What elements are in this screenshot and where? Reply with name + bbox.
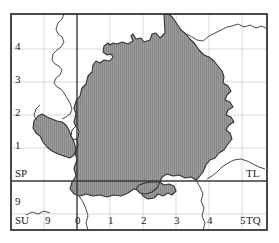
map-figure: 4 3 2 1 9 9 0 1 2 3 4 5 SP TL SU TQ	[0, 0, 279, 243]
northing-tick-1: 1	[15, 140, 21, 151]
grid-square-label-su: SU	[15, 215, 29, 226]
easting-tick-5: 5	[240, 215, 246, 226]
grid-square-label-tq: TQ	[246, 215, 261, 226]
northing-tick-2: 2	[15, 107, 21, 118]
grid-square-label-sp: SP	[15, 168, 27, 179]
easting-tick-1: 1	[108, 215, 114, 226]
easting-tick-0: 0	[75, 215, 81, 226]
easting-tick-2: 2	[141, 215, 147, 226]
map-canvas	[0, 0, 279, 243]
easting-tick-4: 4	[207, 215, 213, 226]
northing-tick-3: 3	[15, 74, 21, 85]
northing-tick-4: 4	[15, 41, 21, 52]
easting-tick-9: 9	[45, 215, 51, 226]
easting-tick-3: 3	[174, 215, 180, 226]
grid-square-label-tl: TL	[246, 168, 259, 179]
northing-tick-9: 9	[15, 196, 21, 207]
